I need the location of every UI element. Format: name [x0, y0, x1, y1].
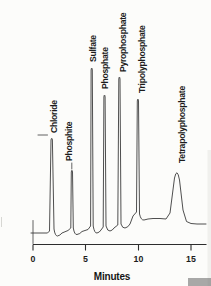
peak-label-phosphite: Phosphite [64, 121, 74, 161]
peak-label-tetrapolyphosphate: Tetrapolyphosphate [177, 86, 187, 163]
chromatogram-figure: Chloride Phosphite Sulfate Phosphate Pyr… [0, 0, 211, 286]
x-tick-label-0: 0 [31, 254, 36, 264]
x-tick-label-10: 10 [134, 254, 144, 264]
peak-label-pyrophosphate: Pyrophosphate [118, 12, 128, 72]
x-tick-label-15: 15 [186, 254, 196, 264]
peak-label-sulfate: Sulfate [88, 35, 98, 62]
peak-label-phosphate: Phosphate [100, 47, 110, 89]
peak-label-tripolyphosphate: Tripolyphosphate [137, 25, 147, 93]
x-axis: 0 5 10 15 Minutes [31, 245, 207, 283]
x-axis-title: Minutes [94, 271, 131, 282]
peak-label-chloride: Chloride [49, 100, 59, 133]
chromatogram-plot: Chloride Phosphite Sulfate Phosphate Pyr… [0, 0, 211, 286]
peak-labels: Chloride Phosphite Sulfate Phosphate Pyr… [49, 12, 187, 163]
x-tick-label-5: 5 [83, 254, 88, 264]
